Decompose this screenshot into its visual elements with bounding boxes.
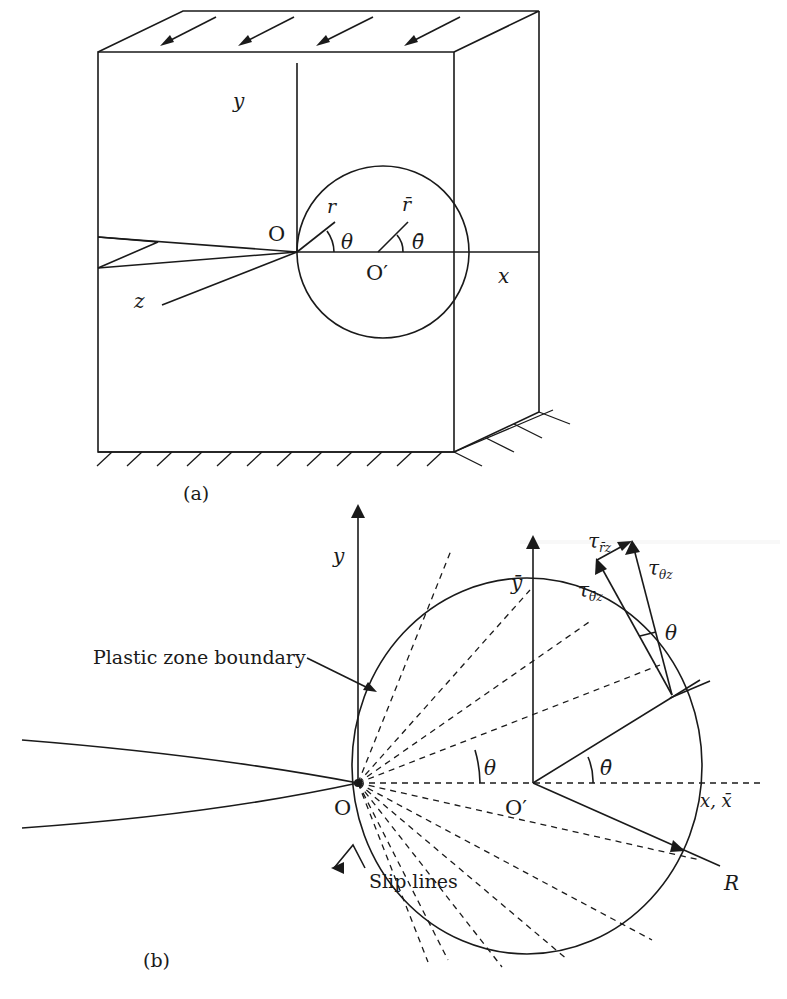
label-theta-a: θ [341,230,353,254]
label-theta-b: θ [484,756,496,780]
label-y-a: y [232,89,245,113]
theta-bar-arc-b [588,757,593,783]
label-origin-prime-a: O′ [366,261,388,285]
label-origin-b: O [334,796,351,820]
block-top-face [98,11,539,52]
label-tau-theta-z: τθz [648,556,673,582]
z-axis-line [162,252,297,305]
label-slip-lines: Slip lines [369,870,458,892]
theta-arc-b [475,750,480,783]
theta-bar-arc [397,235,403,252]
caption-b: (b) [143,949,170,971]
panel-b: y ȳ Plastic zone boundary θ θ̄ O O′ x, x… [22,504,765,971]
label-x-a: x [498,264,509,288]
label-y-bar-b: ȳ [510,571,523,595]
label-origin-prime-b: O′ [505,796,527,820]
caption-a: (a) [183,482,209,504]
label-tau-rbar-z: τr̄z [588,529,612,555]
label-x-xbar-b: x, x̄ [700,790,732,811]
label-r-a: r [327,195,338,217]
crack-upper-face-b [22,740,358,783]
label-R-b: R [723,871,739,895]
plastic-zone-pointer [307,658,370,689]
label-theta-stress: θ [665,621,677,645]
ground-hatch-bottom [97,452,454,466]
R-ray [533,783,720,866]
label-plastic-zone: Plastic zone boundary [93,646,306,668]
panel-a: y O r θ r̄ θ̄ O′ x z (a) [97,11,570,504]
ground-hatch-right [454,410,570,466]
label-origin-a: O [268,222,285,246]
label-theta-bar-a: θ̄ [412,230,424,254]
label-z-a: z [133,289,145,313]
label-theta-bar-b: θ̄ [600,756,612,780]
bleed-through-text [520,540,780,544]
label-y-b: y [332,544,345,568]
label-tau-thetabar-z: τθ̄z [578,578,603,604]
fracture-mechanics-figure: y O r θ r̄ θ̄ O′ x z (a) [0,0,787,999]
label-r-bar-a: r̄ [402,193,413,215]
crack-lower-face-b [22,783,358,828]
r-ray [297,222,335,252]
theta-arc [327,231,334,252]
load-arrows [160,17,460,46]
